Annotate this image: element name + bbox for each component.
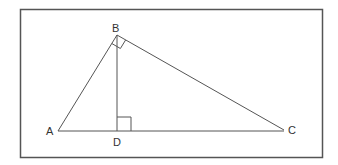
diagram-frame (21, 10, 323, 158)
label-b: B (112, 22, 119, 34)
label-d: D (113, 136, 121, 148)
label-a: A (46, 125, 54, 137)
label-c: C (288, 124, 296, 136)
triangle-diagram: A B C D (0, 0, 338, 165)
